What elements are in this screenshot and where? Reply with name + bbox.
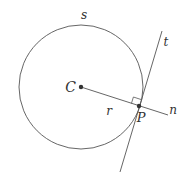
tangent-diagram: s C r P t n (0, 0, 189, 177)
center-point (79, 85, 83, 89)
tangent-label-t: t (164, 35, 169, 49)
point-label-p: P (136, 110, 146, 125)
right-angle-marker (131, 97, 141, 104)
center-label-c: C (65, 79, 76, 95)
normal-label-n: n (169, 103, 177, 117)
normal-line-n (81, 87, 168, 115)
radius-label-r: r (106, 104, 113, 118)
circle-label-s: s (81, 8, 87, 22)
tangent-point (137, 104, 141, 108)
